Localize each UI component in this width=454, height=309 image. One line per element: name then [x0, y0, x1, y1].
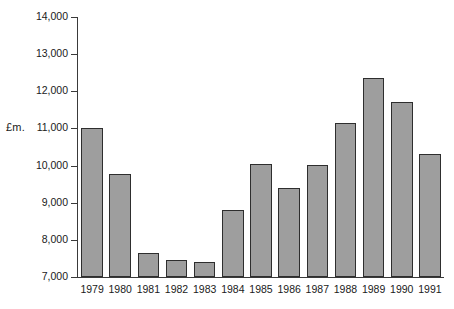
bar [278, 188, 300, 277]
y-axis-tick-mark [71, 128, 77, 129]
y-axis-tick-mark [71, 166, 77, 167]
bar [250, 164, 272, 277]
bar [109, 174, 131, 277]
bar [81, 128, 103, 277]
y-axis-tick-mark [71, 240, 77, 241]
y-axis-unit-label: £m. [6, 121, 25, 133]
y-axis-tick-mark [71, 203, 77, 204]
y-axis-tick-label: 7,000 [42, 270, 68, 283]
y-axis-tick-label: 8,000 [42, 233, 68, 246]
bar-chart-figure: £m. 7,0008,0009,00010,00011,00012,00013,… [0, 0, 454, 309]
bar [307, 165, 329, 277]
y-axis-tick-mark [71, 54, 77, 55]
y-axis-tick-label: 11,000 [37, 121, 68, 134]
y-axis-tick-label: 13,000 [36, 47, 68, 60]
y-axis-tick-label: 14,000 [36, 10, 68, 23]
y-axis-tick-label: 10,000 [36, 159, 68, 172]
bar [222, 210, 244, 277]
plot-area: 7,0008,0009,00010,00011,00012,00013,0001… [77, 17, 443, 277]
y-axis-tick-mark [71, 277, 77, 278]
y-axis-tick-label: 12,000 [36, 84, 68, 97]
x-axis-line [77, 277, 444, 278]
bar [194, 262, 216, 277]
y-axis-tick-mark [71, 17, 77, 18]
bar [363, 78, 385, 277]
bar [166, 260, 188, 277]
y-axis-tick-mark [71, 91, 77, 92]
bar [419, 154, 441, 277]
x-axis-tick-label: 1991 [410, 283, 450, 296]
bar [391, 102, 413, 277]
y-axis-tick-label: 9,000 [42, 196, 68, 209]
bar [335, 123, 357, 277]
bar [138, 253, 160, 277]
